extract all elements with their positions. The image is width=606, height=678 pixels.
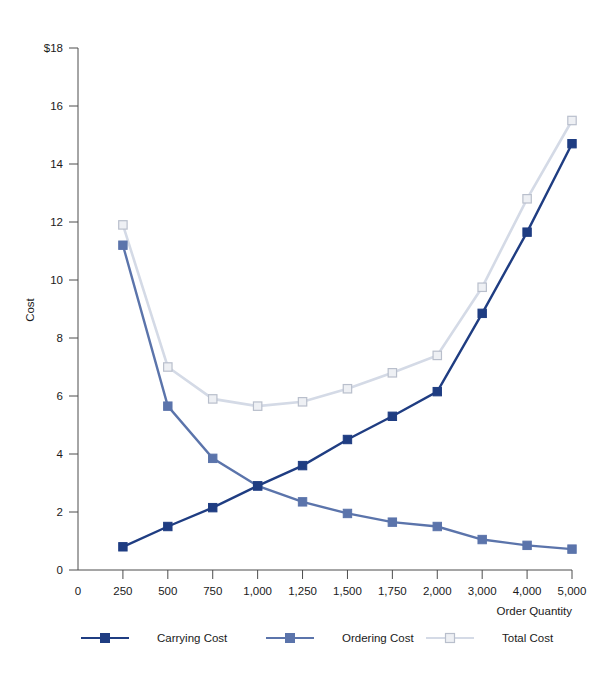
legend-item-total-cost[interactable]: Total Cost xyxy=(426,632,554,644)
y-tick-label: 16 xyxy=(50,100,63,112)
data-point-marker xyxy=(164,522,172,530)
x-tick-label: 1,000 xyxy=(243,585,272,597)
x-tick-label: 250 xyxy=(113,585,132,597)
x-tick-label: 1,750 xyxy=(378,585,407,597)
x-tick-label: 2,000 xyxy=(423,585,452,597)
legend-marker-swatch xyxy=(446,634,455,643)
data-point-marker xyxy=(298,461,306,469)
data-point-marker xyxy=(523,228,531,236)
y-tick-label: 6 xyxy=(57,390,63,402)
data-point-marker xyxy=(298,498,306,506)
data-point-marker xyxy=(388,369,396,377)
data-point-marker xyxy=(343,385,351,393)
y-axis-title: Cost xyxy=(24,297,36,321)
series-ordering-cost xyxy=(119,241,576,553)
data-point-marker xyxy=(119,241,127,249)
legend-item-carrying-cost[interactable]: Carrying Cost xyxy=(81,632,228,644)
data-point-marker xyxy=(568,116,576,124)
series-line xyxy=(123,144,572,547)
data-point-marker xyxy=(343,435,351,443)
data-point-marker xyxy=(253,402,261,410)
series-total-cost xyxy=(119,116,576,410)
data-point-marker xyxy=(388,518,396,526)
legend-item-ordering-cost[interactable]: Ordering Cost xyxy=(266,632,414,644)
data-point-marker xyxy=(253,482,261,490)
legend-label: Total Cost xyxy=(502,632,554,644)
data-point-marker xyxy=(433,522,441,530)
series-line xyxy=(123,245,572,549)
data-point-marker xyxy=(209,503,217,511)
data-point-marker xyxy=(388,412,396,420)
data-point-marker xyxy=(478,309,486,317)
data-point-marker xyxy=(433,387,441,395)
data-point-marker xyxy=(433,351,441,359)
x-tick-label: 4,000 xyxy=(513,585,542,597)
axes xyxy=(69,48,572,579)
chart-legend: Carrying CostOrdering CostTotal Cost xyxy=(81,632,554,644)
cost-line-chart: Cost 0246810121416$18 02505007501,0001,2… xyxy=(0,0,606,678)
legend-marker-swatch xyxy=(286,634,295,643)
chart-canvas: Cost 0246810121416$18 02505007501,0001,2… xyxy=(0,0,606,678)
plot-series-group xyxy=(119,116,576,553)
data-point-marker xyxy=(343,509,351,517)
y-tick-label: 14 xyxy=(50,158,63,170)
x-tick-label: 3,000 xyxy=(468,585,497,597)
data-point-marker xyxy=(568,140,576,148)
x-axis-tick-labels: 02505007501,0001,2501,5001,7502,0003,000… xyxy=(75,585,587,597)
y-tick-label: 4 xyxy=(57,448,64,460)
y-tick-label: 8 xyxy=(57,332,63,344)
data-point-marker xyxy=(209,395,217,403)
data-point-marker xyxy=(209,454,217,462)
legend-label: Carrying Cost xyxy=(157,632,228,644)
data-point-marker xyxy=(119,543,127,551)
x-axis-title: Order Quantity xyxy=(497,605,573,617)
y-tick-label: 10 xyxy=(50,274,63,286)
data-point-marker xyxy=(523,541,531,549)
x-tick-label: 5,000 xyxy=(558,585,587,597)
data-point-marker xyxy=(298,398,306,406)
x-tick-label: 0 xyxy=(75,585,81,597)
data-point-marker xyxy=(119,221,127,229)
x-tick-label: 500 xyxy=(158,585,177,597)
y-tick-label: 0 xyxy=(57,564,63,576)
series-carrying-cost xyxy=(119,140,576,552)
series-line xyxy=(123,121,572,407)
y-axis-tick-labels: 0246810121416$18 xyxy=(44,42,64,576)
x-tick-label: 750 xyxy=(203,585,222,597)
y-tick-label: 2 xyxy=(57,506,63,518)
data-point-marker xyxy=(478,535,486,543)
legend-marker-swatch xyxy=(101,634,110,643)
data-point-marker xyxy=(478,283,486,291)
y-tick-label: 12 xyxy=(50,216,63,228)
legend-label: Ordering Cost xyxy=(342,632,414,644)
x-tick-label: 1,500 xyxy=(333,585,362,597)
data-point-marker xyxy=(164,363,172,371)
x-tick-label: 1,250 xyxy=(288,585,317,597)
data-point-marker xyxy=(164,402,172,410)
data-point-marker xyxy=(523,195,531,203)
data-point-marker xyxy=(568,545,576,553)
y-tick-label: $18 xyxy=(44,42,63,54)
